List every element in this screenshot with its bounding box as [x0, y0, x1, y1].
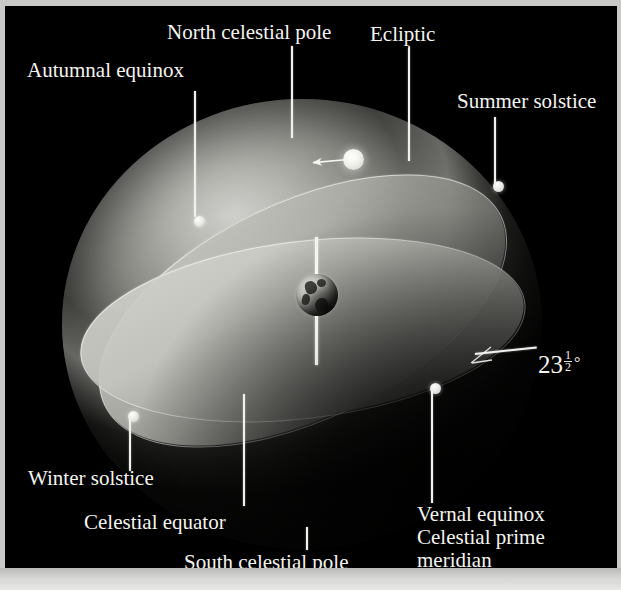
label-winter-solstice: Winter solstice: [28, 467, 154, 490]
leader-south-celestial-pole: [306, 527, 308, 550]
label-autumnal-equinox: Autumnal equinox: [27, 59, 184, 82]
tilt-angle-wedge-icon: [469, 343, 495, 369]
figure-plate: 23 1 2 ° North celestial pole Autumnal e…: [5, 6, 617, 568]
label-summer-solstice: Summer solstice: [457, 90, 596, 113]
label-celestial-prime-meridian-line2: meridian: [417, 549, 597, 568]
leader-summer-solstice: [494, 117, 496, 185]
tilt-angle-denominator: 2: [565, 362, 571, 373]
leader-autumnal-equinox: [194, 91, 196, 217]
label-south-celestial-pole: South celestial pole: [184, 551, 348, 568]
earth-terminator: [296, 274, 338, 316]
leader-north-celestial-pole: [291, 46, 293, 138]
label-north-celestial-pole: North celestial pole: [167, 21, 331, 44]
label-ecliptic: Ecliptic: [370, 23, 435, 46]
tilt-angle-fraction: 1 2: [564, 350, 572, 373]
tilt-angle-label: 23 1 2 °: [538, 350, 580, 379]
sun-motion-arrow-icon: [305, 156, 349, 170]
label-vernal-equinox: Vernal equinox: [417, 503, 597, 526]
leader-ecliptic: [408, 46, 410, 161]
leader-celestial-equator: [243, 394, 245, 506]
autumnal-equinox-point: [194, 216, 205, 227]
label-celestial-prime-meridian-line1: Celestial prime: [417, 526, 597, 549]
degree-symbol: °: [574, 350, 580, 375]
leader-winter-solstice: [129, 416, 131, 471]
celestial-sphere-figure: 23 1 2 ° North celestial pole Autumnal e…: [0, 0, 621, 590]
figure-bottom-margin: [0, 568, 621, 590]
label-vernal-equinox-group: Vernal equinox Celestial prime meridian: [417, 503, 597, 568]
label-celestial-equator: Celestial equator: [84, 511, 226, 534]
tilt-angle-whole: 23: [538, 352, 563, 377]
earth-globe: [296, 274, 338, 316]
leader-vernal-equinox: [431, 388, 433, 503]
